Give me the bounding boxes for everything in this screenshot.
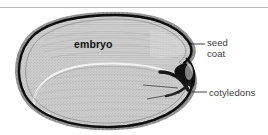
label-seed-coat: seedcoat bbox=[207, 37, 228, 59]
label-seed-coat-line1: seed bbox=[207, 37, 228, 48]
seed-cross-section-diagram bbox=[0, 0, 268, 135]
figure-root: embryo seedcoat cotyledons bbox=[0, 0, 268, 135]
leader-seed-coat-anchor bbox=[189, 43, 192, 46]
micropyle-light-spot bbox=[185, 64, 193, 80]
label-seed-coat-line2: coat bbox=[207, 48, 225, 59]
label-cotyledons: cotyledons bbox=[209, 87, 255, 98]
seed-body bbox=[17, 14, 194, 128]
label-embryo: embryo bbox=[74, 39, 113, 50]
